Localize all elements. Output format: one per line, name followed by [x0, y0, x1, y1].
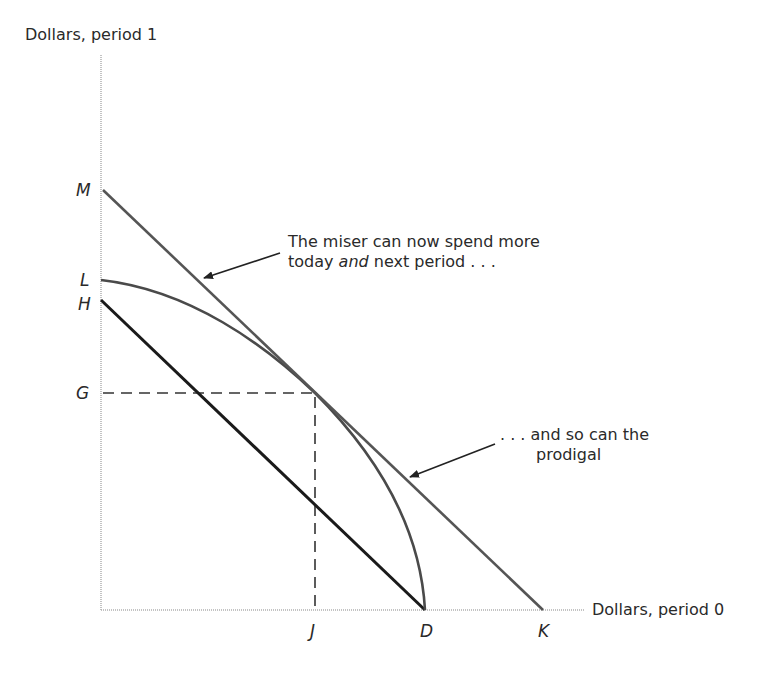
investment-curve-ld: [101, 280, 425, 610]
text: today: [288, 252, 339, 271]
point-k-label: K: [538, 622, 549, 640]
text: next period . . .: [369, 252, 496, 271]
annotation-miser-line1: The miser can now spend more: [288, 232, 540, 252]
diagram-canvas: [0, 0, 777, 674]
annotation-miser-line2: today and next period . . .: [288, 252, 540, 272]
y-axis-label: Dollars, period 1: [25, 26, 157, 44]
annotation-prodigal-line1: . . . and so can the: [500, 425, 649, 445]
annotation-prodigal: . . . and so can the prodigal: [500, 425, 649, 465]
x-axis-label: Dollars, period 0: [592, 601, 724, 619]
arrow-miser: [204, 253, 280, 278]
annotation-prodigal-line2: prodigal: [500, 445, 649, 465]
point-g-label: G: [76, 384, 89, 402]
budget-line-hd: [101, 300, 425, 610]
point-h-label: H: [78, 295, 91, 313]
emphasis-text: and: [339, 252, 369, 271]
annotation-miser: The miser can now spend more today and n…: [288, 232, 540, 272]
point-j-label: J: [310, 622, 315, 640]
point-l-label: L: [80, 271, 89, 289]
point-d-label: D: [420, 622, 433, 640]
point-m-label: M: [76, 181, 91, 199]
arrow-prodigal: [410, 444, 495, 477]
